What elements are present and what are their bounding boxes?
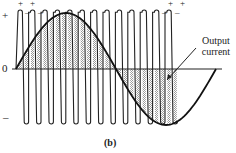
annotation-line-2: current — [196, 47, 236, 57]
dash-mark: – — [162, 8, 167, 17]
dash-mark: – — [38, 8, 43, 17]
dash-mark: – — [175, 8, 180, 17]
annotation-line-1: Output — [196, 36, 236, 46]
dash-mark: – — [25, 8, 30, 17]
output-current-annotation: Output current — [196, 36, 236, 57]
polarity-mark: + — [168, 0, 173, 8]
polarity-mark: + — [30, 0, 35, 8]
figure-caption: (b) — [104, 138, 116, 148]
pwm-waveform-figure — [0, 0, 236, 153]
polarity-mark: + — [18, 0, 23, 8]
polarity-mark: + — [180, 0, 185, 8]
negative-level-label: – — [3, 112, 9, 123]
zero-level-label: 0 — [2, 63, 8, 74]
positive-level-label: + — [2, 10, 8, 21]
